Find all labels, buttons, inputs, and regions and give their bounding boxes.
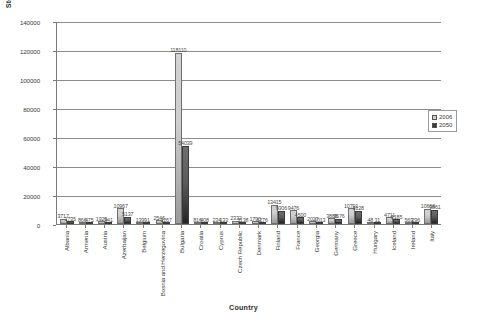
bar-2050: 1267 bbox=[163, 222, 170, 224]
bar-group: 23321138 bbox=[230, 22, 249, 224]
bar-2006: 48 bbox=[367, 222, 374, 224]
legend-label: 2006 bbox=[439, 114, 452, 120]
bar-group: 234133 bbox=[211, 22, 230, 224]
x-tick-label: Austria bbox=[101, 231, 108, 250]
x-tick-mark bbox=[374, 225, 375, 228]
y-tick-label: 100000 bbox=[20, 77, 40, 84]
bar-value-label: 1276 bbox=[256, 217, 267, 223]
x-tick-mark bbox=[123, 225, 124, 228]
y-tick-mark bbox=[53, 51, 56, 52]
x-axis-category: Finland bbox=[268, 225, 287, 300]
x-tick-mark bbox=[258, 225, 259, 228]
x-axis-category: Cyprus bbox=[210, 225, 229, 300]
bar-group: 109675137 bbox=[115, 22, 134, 224]
y-axis-title-container: Storage Capacity (mcm) bbox=[10, 0, 30, 203]
x-tick-label: Czech Republic bbox=[235, 231, 242, 273]
legend-swatch-icon bbox=[432, 115, 437, 120]
x-axis-category: Czech Republic bbox=[229, 225, 248, 300]
legend-item[interactable]: 2050 bbox=[432, 122, 452, 128]
bar-group: 47113185 bbox=[383, 22, 402, 224]
x-tick-mark bbox=[162, 225, 163, 228]
x-tick-label: Armenia bbox=[81, 231, 88, 253]
y-tick-mark bbox=[53, 138, 56, 139]
bar-group: 4831 bbox=[364, 22, 383, 224]
x-axis-category: Azerbaijan bbox=[114, 225, 133, 300]
x-tick-label: Ireland bbox=[409, 231, 416, 249]
x-tick-mark bbox=[412, 225, 413, 228]
x-tick-label: Cyprus bbox=[216, 231, 223, 250]
bar-2050: 1276 bbox=[259, 222, 266, 224]
x-tick-mark bbox=[200, 225, 201, 228]
x-axis-category: Hungary bbox=[364, 225, 383, 300]
x-tick-label: Bosnia and Herzegovina bbox=[158, 231, 165, 296]
bar-group: 1929941 bbox=[95, 22, 114, 224]
bar-value-label: 9476 bbox=[288, 205, 299, 211]
legend-label: 2050 bbox=[439, 122, 452, 128]
y-tick-label: 80000 bbox=[23, 106, 40, 113]
x-tick-label: Iceland bbox=[389, 231, 396, 250]
x-tick-label: France bbox=[293, 231, 300, 250]
bar-group: 20271013 bbox=[307, 22, 326, 224]
x-axis-category: Albania bbox=[56, 225, 75, 300]
y-tick-mark bbox=[53, 109, 56, 110]
x-tick-mark bbox=[316, 225, 317, 228]
y-tick-label: 40000 bbox=[23, 164, 40, 171]
y-tick-label: 60000 bbox=[23, 135, 40, 142]
bar-value-label: 9861 bbox=[429, 204, 440, 210]
legend: 20062050 bbox=[428, 110, 457, 132]
x-axis-category: Iceland bbox=[383, 225, 402, 300]
legend-swatch-icon bbox=[432, 123, 437, 128]
bar-value-label: 1013 bbox=[314, 217, 325, 223]
bar-value-label: 1138 bbox=[237, 217, 248, 223]
bar-2050: 9861 bbox=[431, 210, 438, 224]
bar-value-label: 1735 bbox=[64, 216, 75, 222]
bar-group: 37171735 bbox=[57, 22, 76, 224]
x-tick-label: Croatia bbox=[197, 231, 204, 250]
x-tick-label: Denmark bbox=[255, 231, 262, 255]
plot-area: 3717173586647519299411096751371399125461… bbox=[56, 22, 441, 225]
bar-chart: Storage Capacity (mcm) 37171735866475192… bbox=[0, 0, 487, 324]
bar-group: 17901276 bbox=[249, 22, 268, 224]
bar-group: 866475 bbox=[76, 22, 95, 224]
bar-2050: 31 bbox=[374, 222, 381, 224]
x-axis-category: Germany bbox=[326, 225, 345, 300]
bar-2050: 475 bbox=[86, 222, 93, 224]
x-tick-mark bbox=[181, 225, 182, 228]
bar-value-label: 408 bbox=[200, 217, 209, 223]
x-tick-mark bbox=[239, 225, 240, 228]
bar-2006: 3886 bbox=[328, 218, 335, 224]
bar-group: 13991 bbox=[134, 22, 153, 224]
x-axis-category: Ireland bbox=[403, 225, 422, 300]
bar-2006: 118110 bbox=[175, 53, 182, 224]
x-tick-label: Hungary bbox=[370, 231, 377, 254]
x-axis-category: Denmark bbox=[249, 225, 268, 300]
legend-item[interactable]: 2006 bbox=[432, 114, 452, 120]
x-axis-category: Belgium bbox=[133, 225, 152, 300]
bar-group: 816408 bbox=[191, 22, 210, 224]
x-tick-label: Italy bbox=[428, 231, 435, 242]
x-tick-mark bbox=[220, 225, 221, 228]
bar-2050: 296 bbox=[412, 222, 419, 224]
bar-group: 569296 bbox=[403, 22, 422, 224]
bar-value-label: 3676 bbox=[333, 213, 344, 219]
y-tick-label: 140000 bbox=[20, 19, 40, 26]
x-tick-mark bbox=[85, 225, 86, 228]
x-axis-category: Bosnia and Herzegovina bbox=[152, 225, 171, 300]
bar-2050: 9306 bbox=[278, 211, 285, 224]
x-tick-mark bbox=[66, 225, 67, 228]
bar-value-label: 296 bbox=[411, 217, 420, 223]
bar-value-label: 54039 bbox=[178, 140, 192, 146]
bar-2050: 91 bbox=[143, 222, 150, 224]
x-axis-category: Greece bbox=[345, 225, 364, 300]
x-axis-category: Austria bbox=[95, 225, 114, 300]
x-tick-mark bbox=[354, 225, 355, 228]
x-axis-title: Country bbox=[0, 303, 487, 312]
x-tick-label: Finland bbox=[274, 231, 281, 251]
x-tick-mark bbox=[297, 225, 298, 228]
bar-value-label: 475 bbox=[85, 217, 94, 223]
x-axis-category: Bulgaria bbox=[172, 225, 191, 300]
x-tick-mark bbox=[431, 225, 432, 228]
x-tick-label: Greece bbox=[351, 231, 358, 251]
x-tick-label: Azerbaijan bbox=[120, 231, 127, 259]
bar-2050: 5137 bbox=[124, 217, 131, 224]
